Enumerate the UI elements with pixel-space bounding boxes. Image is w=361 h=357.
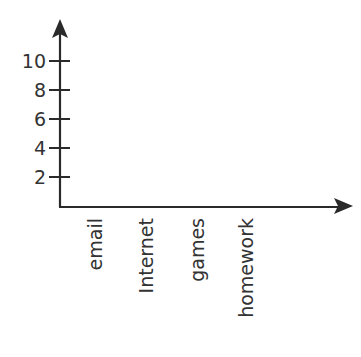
- category-label-email: email: [84, 218, 106, 270]
- category-label-internet: Internet: [135, 218, 157, 293]
- y-tick-label: 2: [34, 166, 46, 188]
- y-tick-label: 8: [34, 79, 46, 101]
- chart: 10 8 6 4 2 email Internet games homework: [0, 0, 361, 357]
- y-tick-label: 4: [34, 137, 46, 159]
- y-tick-labels: 10 8 6 4 2: [22, 50, 46, 188]
- category-label-homework: homework: [235, 218, 257, 318]
- x-category-labels: email Internet games homework: [84, 218, 257, 318]
- y-tick-label: 6: [34, 108, 46, 130]
- y-tick-label: 10: [22, 50, 46, 72]
- category-label-games: games: [186, 218, 208, 282]
